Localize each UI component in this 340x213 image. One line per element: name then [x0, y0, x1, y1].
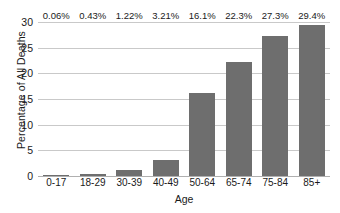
bar-chart: Percentage of All Deaths 30 25 20 15 10 …: [0, 0, 340, 213]
bar-slot-40-49: 3.21%: [148, 22, 185, 176]
bar-slot-30-39: 1.22%: [111, 22, 148, 176]
bar[interactable]: [262, 36, 288, 176]
x-tick-label-18-29: 18-29: [75, 178, 112, 188]
bar-value-label: 27.3%: [262, 11, 289, 21]
x-axis-tick-labels: 0-17 18-29 30-39 40-49 50-64 65-74 75-84…: [38, 178, 330, 188]
bar-slot-75-84: 27.3%: [257, 22, 294, 176]
y-tick-label-25: 25: [21, 42, 33, 53]
bar[interactable]: [189, 93, 215, 176]
bar-slot-65-74: 22.3%: [221, 22, 258, 176]
y-tick-label-10: 10: [21, 119, 33, 130]
bar-value-label: 0.43%: [79, 11, 106, 21]
bar-slot-18-29: 0.43%: [75, 22, 112, 176]
bar-value-label: 3.21%: [152, 11, 179, 21]
bar-value-label: 22.3%: [225, 11, 252, 21]
y-tick-label-5: 5: [27, 145, 33, 156]
bar-value-label: 29.4%: [298, 11, 325, 21]
x-tick-label-85-plus: 85+: [294, 178, 331, 188]
bar-slot-50-64: 16.1%: [184, 22, 221, 176]
y-tick-label-20: 20: [21, 68, 33, 79]
x-tick-label-75-84: 75-84: [257, 178, 294, 188]
bar[interactable]: [226, 62, 252, 176]
x-axis-title: Age: [38, 194, 330, 205]
y-tick-label-0: 0: [27, 171, 33, 182]
x-tick-label-50-64: 50-64: [184, 178, 221, 188]
plot-area: 30 25 20 15 10 5 0 0.06% 0.43%: [38, 22, 330, 176]
x-tick-label-30-39: 30-39: [111, 178, 148, 188]
bar-slot-85-plus: 29.4%: [294, 22, 331, 176]
y-tick-label-15: 15: [21, 94, 33, 105]
bar[interactable]: [116, 170, 142, 176]
y-axis-title: Percentage of All Deaths: [15, 10, 27, 170]
bar-value-label: 0.06%: [43, 11, 70, 21]
x-tick-label-65-74: 65-74: [221, 178, 258, 188]
x-tick-label-0-17: 0-17: [38, 178, 75, 188]
bar-series: 0.06% 0.43% 1.22% 3.21% 16.1% 22.3%: [38, 22, 330, 176]
bar-value-label: 16.1%: [189, 11, 216, 21]
y-tick-label-30: 30: [21, 17, 33, 28]
bar[interactable]: [43, 175, 69, 176]
x-tick-label-40-49: 40-49: [148, 178, 185, 188]
bar-slot-0-17: 0.06%: [38, 22, 75, 176]
bar-value-label: 1.22%: [116, 11, 143, 21]
bar[interactable]: [299, 25, 325, 176]
bar[interactable]: [80, 174, 106, 176]
bar[interactable]: [153, 160, 179, 176]
